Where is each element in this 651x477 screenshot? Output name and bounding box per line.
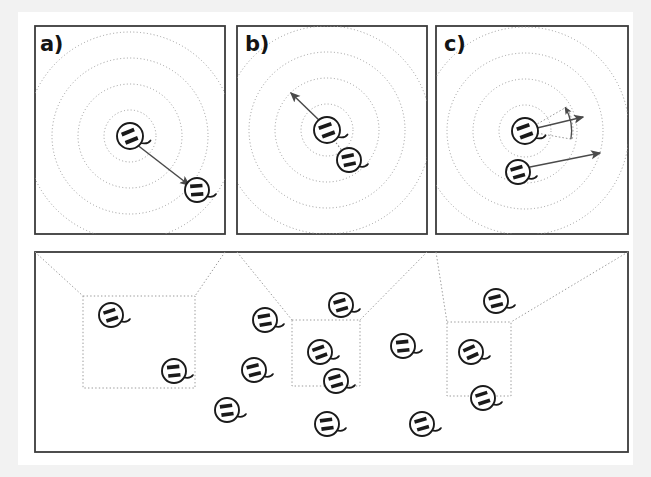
- agent-body: [215, 398, 239, 422]
- agent-body: [329, 293, 353, 317]
- panel-c: [421, 26, 629, 235]
- agent-body: [308, 340, 332, 364]
- panel-overview: [35, 252, 628, 452]
- agent-body: [484, 289, 508, 313]
- agent-mark-upper: [396, 341, 408, 342]
- agent-mark-upper: [167, 366, 179, 367]
- agent-body: [99, 303, 123, 327]
- agent-body: [410, 412, 434, 436]
- figure-canvas: [0, 0, 651, 477]
- agent-body: [471, 386, 495, 410]
- panel-b-label: b): [245, 34, 269, 55]
- agent-mark-upper: [258, 315, 270, 317]
- agent-body: [391, 334, 415, 358]
- figure-root: a)b)c): [0, 0, 651, 477]
- agent-body: [162, 359, 186, 383]
- agent-mark-lower: [221, 413, 233, 415]
- agent-body: [242, 358, 266, 382]
- agent-mark-lower: [321, 427, 333, 429]
- agent-body: [185, 178, 209, 202]
- agent-mark-lower: [168, 375, 180, 376]
- agent-mark-upper: [320, 419, 332, 421]
- agent-body: [253, 308, 277, 332]
- panel-a: [26, 26, 234, 240]
- panel-a-label: a): [40, 34, 63, 55]
- agent-body: [459, 340, 483, 364]
- agent-body: [324, 369, 348, 393]
- agent-body: [512, 118, 538, 144]
- panel-b: [223, 26, 431, 234]
- agent-body: [337, 148, 361, 172]
- agent-body: [506, 160, 530, 184]
- agent-body: [315, 412, 339, 436]
- agent-mark-upper: [342, 155, 354, 158]
- agent-mark-lower: [344, 163, 356, 166]
- agent-mark-upper: [220, 405, 232, 407]
- agent-mark-upper: [190, 186, 202, 187]
- agent-mark-lower: [260, 323, 272, 325]
- agent-body: [117, 123, 143, 149]
- agent-mark-lower: [397, 350, 409, 351]
- panel-c-label: c): [444, 34, 465, 55]
- agent-mark-lower: [191, 194, 203, 195]
- agent-body: [314, 117, 340, 143]
